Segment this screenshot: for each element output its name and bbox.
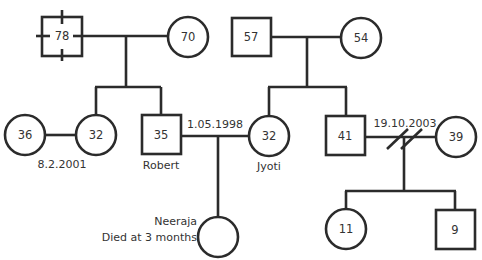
ex-wife-39-age: 39	[449, 130, 464, 144]
daughter-marriage-date: 8.2.2001	[38, 158, 87, 171]
son-divorce-line	[365, 129, 436, 191]
ex-wife-39-node: 39	[436, 117, 476, 157]
jyoti-name: Jyoti	[256, 160, 281, 173]
grandmother-70-age: 70	[181, 30, 196, 44]
jyoti-age: 32	[262, 129, 277, 143]
grandmother-70-node: 70	[168, 17, 208, 57]
son-41-node: 41	[326, 116, 365, 155]
robert-node: 35	[142, 115, 181, 154]
granddaughter-11-age: 11	[339, 222, 354, 236]
robert-jyoti-marriage-date: 1.05.1998	[187, 118, 243, 131]
daughter-32-age: 32	[89, 128, 104, 142]
grandfather-57-age: 57	[244, 30, 259, 44]
neeraja-note: Died at 3 months	[102, 231, 198, 244]
jyoti-node: 32	[249, 116, 289, 156]
genogram-diagram: 78 70 57 54 36 32 8.2.2001 1.05.1998	[0, 0, 482, 260]
granddaughter-11-node: 11	[326, 209, 366, 249]
neeraja-name: Neeraja	[154, 215, 197, 228]
spouse-36-age: 36	[18, 128, 33, 142]
son-41-age: 41	[338, 129, 353, 143]
neeraja-node	[198, 217, 238, 257]
grandmother-54-node: 54	[341, 18, 381, 58]
robert-jyoti-marriage-line	[181, 136, 249, 217]
robert-age: 35	[154, 128, 169, 142]
left-couple-children-line	[95, 36, 161, 115]
grandmother-54-age: 54	[354, 31, 369, 45]
grandfather-57-node: 57	[232, 18, 271, 56]
right-couple-children-line	[268, 37, 347, 116]
daughter-32-node: 32	[76, 115, 116, 155]
grandfather-78-node: 78	[36, 10, 82, 61]
son-divorce-date: 19.10.2003	[374, 117, 437, 130]
grandfather-78-age: 78	[55, 29, 70, 43]
robert-name: Robert	[143, 159, 180, 172]
grandson-9-age: 9	[451, 223, 458, 237]
grandchildren-line	[345, 191, 456, 210]
grandson-9-node: 9	[436, 210, 475, 249]
spouse-36-node: 36	[5, 115, 45, 155]
